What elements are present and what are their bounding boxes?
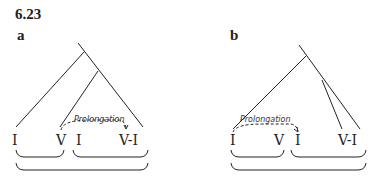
prolongation-label-b: Prolongation [240, 115, 291, 124]
chord-b-1: I [230, 132, 236, 148]
bracket-a1 [16, 150, 64, 157]
chord-b-4: V-I [337, 132, 357, 148]
bracket-a2 [73, 150, 148, 157]
tree-a [16, 43, 148, 170]
tree-b [231, 45, 366, 170]
bracket-b1 [231, 150, 284, 157]
tree-diagrams: I V I V-I Prolongation I V I V-I Prolong… [0, 0, 374, 183]
bracket-b3 [231, 163, 366, 170]
prolongation-arrow-b [233, 124, 298, 132]
chord-b-3: I [295, 132, 301, 148]
chord-a-1: I [12, 132, 18, 148]
prolongation-label-a: Prolongation [74, 115, 125, 124]
bracket-b2 [291, 150, 366, 157]
chord-a-3: I [76, 132, 82, 148]
chord-b-2: V [273, 132, 285, 148]
chord-a-2: V [55, 132, 67, 148]
bracket-a3 [16, 163, 148, 170]
chord-a-4: V-I [118, 132, 138, 148]
